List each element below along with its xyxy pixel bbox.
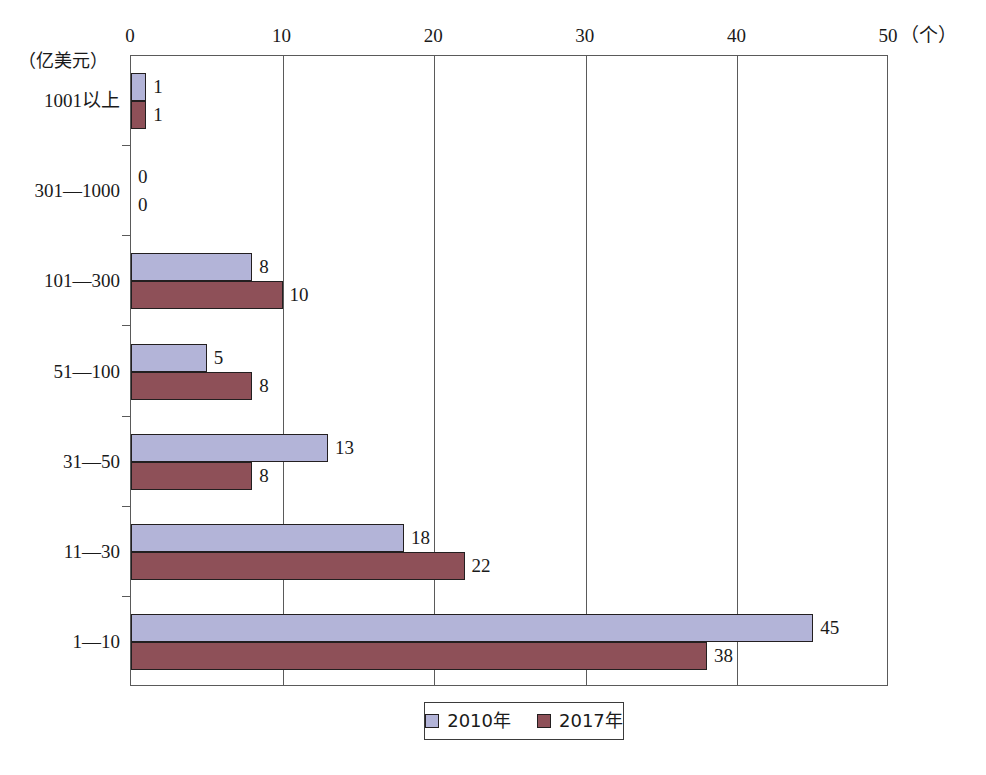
y-axis-tick-label: 301—1000 [35,181,121,200]
bar-chart: （亿美元） （个） 01020304050 1001以上301—1000101—… [0,0,986,775]
y-axis-unit-label: （亿美元） [18,52,108,70]
legend-item-2010: 2010年 [425,712,511,730]
legend-swatch-icon-2010 [425,714,439,728]
bar [131,253,252,281]
legend-label-2017: 2017年 [559,712,623,730]
gridline [283,56,284,685]
bar [131,614,813,642]
bar-value-label: 8 [252,372,269,400]
x-axis-tick-label: 20 [424,26,443,45]
bar [131,344,207,372]
bar-value-label: 1 [146,73,163,101]
x-axis-tick-label: 0 [125,26,135,45]
bar [131,101,146,129]
y-axis-tick-label: 1—10 [73,631,121,650]
y-axis-tick-label: 51—100 [54,361,121,380]
y-axis-tick-label: 31—50 [63,451,120,470]
plot-area: 11008105813818224538 [130,55,888,686]
bar [131,372,252,400]
y-axis-tick-label: 11—30 [64,541,120,560]
y-axis-tick-label: 101—300 [44,271,120,290]
legend: 2010年 2017年 [424,702,624,740]
bar [131,642,707,670]
x-axis-unit-label: （个） [900,26,957,45]
bar-value-label: 1 [146,101,163,129]
bar-value-label: 8 [252,462,269,490]
gridline [434,56,435,685]
gridline [737,56,738,685]
bar-value-label: 5 [207,344,224,372]
gridline [586,56,587,685]
legend-item-2017: 2017年 [537,712,623,730]
bar [131,434,328,462]
bar-value-label: 18 [404,524,430,552]
bar-value-label: 38 [707,642,733,670]
bar-value-label: 8 [252,253,269,281]
bar-value-label: 0 [131,191,148,219]
legend-swatch-icon-2017 [537,714,551,728]
bar [131,552,465,580]
bar-value-label: 10 [283,281,309,309]
bar-value-label: 13 [328,434,354,462]
bar [131,73,146,101]
bar [131,281,283,309]
x-axis-tick-label: 10 [272,26,291,45]
bar [131,524,404,552]
bar-value-label: 0 [131,163,148,191]
bar-value-label: 45 [813,614,839,642]
bar [131,462,252,490]
x-axis-tick-label: 50 [879,26,898,45]
x-axis-tick-label: 30 [575,26,594,45]
x-axis-tick-label: 40 [727,26,746,45]
bar-value-label: 22 [465,552,491,580]
y-axis-tick-label: 1001以上 [44,91,120,110]
legend-label-2010: 2010年 [447,712,511,730]
